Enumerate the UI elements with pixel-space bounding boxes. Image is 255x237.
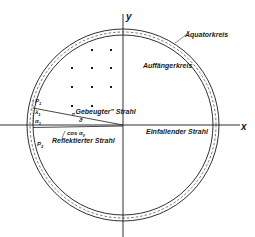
lattice-point [71, 67, 73, 69]
lattice-point [110, 86, 112, 88]
incident-ray-label: Einfallender Strahl [146, 128, 209, 135]
lattice-point [91, 86, 93, 88]
lattice-point [91, 105, 93, 107]
p2-label: P2 [37, 141, 44, 149]
lattice-point [91, 67, 93, 69]
lattice-point [110, 67, 112, 69]
equator-circle-label: Äquatorkreis [184, 31, 228, 39]
lattice-point [110, 49, 112, 51]
y-axis-label: y [125, 11, 132, 22]
diffracted-ray-label: „Gebeugter" Strahl [71, 108, 137, 116]
x-axis-label: x [240, 121, 247, 132]
lattice-point [71, 86, 73, 88]
ewald-sphere-diagram: y x Äquatorkreis Auffängerkreis „Gebeugt… [0, 0, 255, 237]
theta-symbol: ϑ [78, 117, 83, 123]
reflected-ray [33, 126, 123, 128]
detector-circle-label: Auffängerkreis [142, 62, 192, 70]
lattice-point [71, 105, 73, 107]
p1-label: P1 [35, 98, 42, 106]
alpha1-label: α1 [35, 118, 42, 126]
lattice-point [91, 49, 93, 51]
reflected-ray-label: Reflektierter Strahl [52, 137, 116, 144]
lambda1-label: λ1 [34, 109, 41, 117]
reciprocal-lattice-points [71, 49, 112, 107]
